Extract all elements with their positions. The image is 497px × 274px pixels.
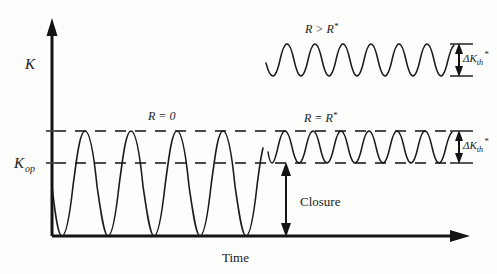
wave-r-zero-group [52,131,263,236]
label-r-equal-star-main: R [303,111,312,125]
dk-lower-label: ΔKth* [462,136,489,154]
measurement-closure: Closure [281,162,341,237]
x-axis-label: Time [222,250,249,265]
dk-upper-label: ΔKth* [462,49,489,67]
y-axis-label: K [24,56,36,72]
closure-label: Closure [300,194,341,209]
label-r-equal-star: R=R* [303,110,338,125]
label-r-equal-star-text: R=R* [303,110,338,125]
label-r-greater-star-asterisk: * [334,21,339,31]
wave-r-equal-star-group [268,131,452,163]
wave-r-equal-star-path [268,131,452,163]
wave-r-greater-star-path [266,44,454,76]
figure-canvas: K Time K op R = 0 [0,0,497,274]
label-r-greater-star-op: > [315,22,323,36]
label-r-zero: R = 0 [147,109,175,123]
dk-lower-label-star: * [484,136,489,146]
label-r-zero-text: R = 0 [147,109,175,123]
dk-upper-label-sub: th [477,58,483,67]
y-axis-arrowhead [47,18,58,36]
label-r-equal-star-op: = [314,111,322,125]
dk-lower-label-delta: ΔK [462,139,477,151]
measurement-delta-k-th-lower: ΔKth* [450,130,489,164]
dk-lower-label-sub: th [477,145,483,154]
kop-label-main: K [13,155,25,171]
wave-r-zero-path [52,131,263,236]
kop-axis-label: K op [13,155,35,174]
label-r-greater-star-main: R [304,22,313,36]
dk-upper-label-delta: ΔK [462,52,477,64]
label-r-greater-star: R>R* [304,21,339,36]
kop-label-subscript: op [25,163,35,174]
dk-upper-label-star: * [484,49,489,59]
fatigue-closure-diagram: K Time K op R = 0 [0,0,497,274]
label-r-greater-star-text: R>R* [304,21,339,36]
label-r-equal-star-asterisk: * [333,110,338,120]
x-axis-arrowhead [450,230,470,242]
closure-arrowhead-top [281,162,291,176]
measurement-delta-k-th-upper: ΔKth* [450,43,489,77]
wave-r-greater-star-group [266,44,454,76]
